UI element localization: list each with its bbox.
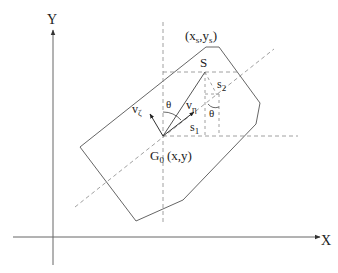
s1-label: s1 [190, 120, 199, 136]
vehicle-body-polygon [80, 47, 260, 221]
theta-right-label: θ [209, 107, 214, 119]
v-zeta-label: vζ [132, 102, 142, 118]
target-point-label: S [200, 55, 207, 70]
origin-point-label: G0(x,y) [150, 148, 192, 165]
v-zeta-arrow [150, 114, 163, 136]
body-axis-dashed-line [75, 49, 274, 207]
s2-label: s2 [217, 77, 226, 93]
v-eta-label: vη [186, 98, 197, 114]
y-axis-label: Y [47, 12, 57, 27]
x-axis-label: X [321, 233, 331, 248]
s2-perpendicular-dashed [205, 72, 217, 95]
vehicle-coordinate-diagram: Y X (xs,ys) S s2 s1 θ θ vη vζ G0(x,y) [0, 0, 338, 273]
theta-left-label: θ [166, 98, 171, 110]
target-coords-label: (xs,ys) [185, 28, 217, 45]
